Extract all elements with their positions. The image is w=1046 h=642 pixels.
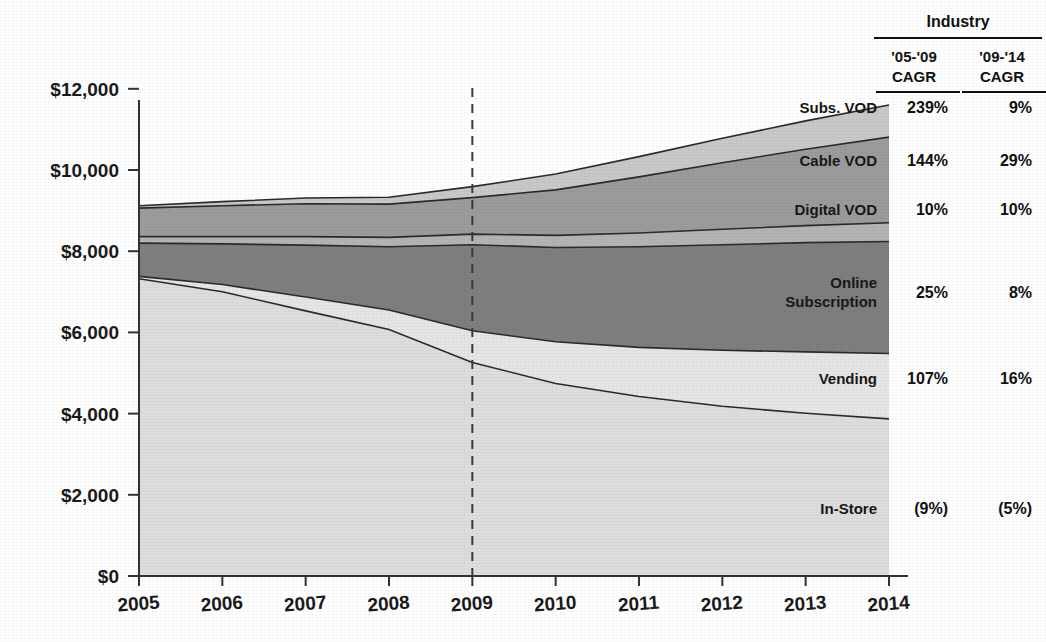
- y-axis-label: $10,000: [50, 160, 119, 181]
- series-label-vending: Vending: [819, 370, 877, 387]
- cagr-05-09-value: 107%: [907, 370, 948, 387]
- x-axis-label: 2007: [283, 592, 327, 616]
- x-axis-label: 2008: [367, 592, 411, 616]
- x-axis-label: 2006: [200, 592, 244, 616]
- y-axis-tick-labels: $12,000$10,000$8,000$6,000$4,000$2,000$0: [50, 79, 119, 587]
- chart-page: $12,000$10,000$8,000$6,000$4,000$2,000$0…: [0, 0, 1046, 642]
- cagr-05-09-value: 25%: [916, 284, 948, 301]
- x-axis-label: 2011: [617, 592, 660, 616]
- x-axis-label: 2009: [450, 592, 494, 616]
- series-label-online-subscription-line2: Subscription: [785, 293, 877, 310]
- table-column-header-line1: '09-'14: [979, 48, 1025, 65]
- series-label-in-store: In-Store: [820, 500, 877, 517]
- y-axis-label: $8,000: [61, 241, 119, 262]
- x-axis-label: 2013: [783, 592, 827, 616]
- series-label-cable-vod: Cable VOD: [799, 152, 877, 169]
- table-column-header-line1: '05-'09: [891, 48, 937, 65]
- y-axis-label: $6,000: [61, 322, 119, 343]
- series-label-digital-vod: Digital VOD: [794, 201, 877, 218]
- x-axis-label: 2012: [700, 592, 744, 616]
- series-label-subs-vod: Subs. VOD: [799, 99, 877, 116]
- stacked-area-chart: $12,000$10,000$8,000$6,000$4,000$2,000$0…: [0, 0, 1046, 642]
- cagr-05-09-value: 144%: [907, 152, 948, 169]
- cagr-09-14-value: 8%: [1009, 284, 1032, 301]
- cagr-09-14-value: 16%: [1000, 370, 1032, 387]
- x-axis-label: 2010: [533, 592, 577, 616]
- cagr-05-09-value: 10%: [916, 201, 948, 218]
- x-axis-label: 2014: [867, 592, 911, 616]
- y-axis-label: $12,000: [50, 79, 119, 100]
- x-axis-label: 2005: [117, 592, 161, 616]
- cagr-05-09-value: (9%): [914, 500, 948, 517]
- cagr-09-14-value: (5%): [998, 500, 1032, 517]
- cagr-09-14-value: 10%: [1000, 201, 1032, 218]
- y-axis-label: $2,000: [61, 485, 119, 506]
- x-axis-tick-labels: 2005200620072008200920102011201220132014: [117, 592, 911, 616]
- table-group-header: Industry: [926, 13, 989, 30]
- table-column-header-line2: CAGR: [980, 68, 1024, 85]
- cagr-09-14-value: 29%: [1000, 152, 1032, 169]
- cagr-table: Industry'05-'09CAGR'09-'14CAGR239%9%144%…: [874, 13, 1046, 517]
- cagr-05-09-value: 239%: [907, 99, 948, 116]
- table-column-header-line2: CAGR: [892, 68, 936, 85]
- series-label-online-subscription-line1: Online: [830, 274, 877, 291]
- cagr-09-14-value: 9%: [1009, 99, 1032, 116]
- y-axis-label: $0: [98, 566, 119, 587]
- y-axis-label: $4,000: [61, 404, 119, 425]
- area-bands: [139, 105, 889, 576]
